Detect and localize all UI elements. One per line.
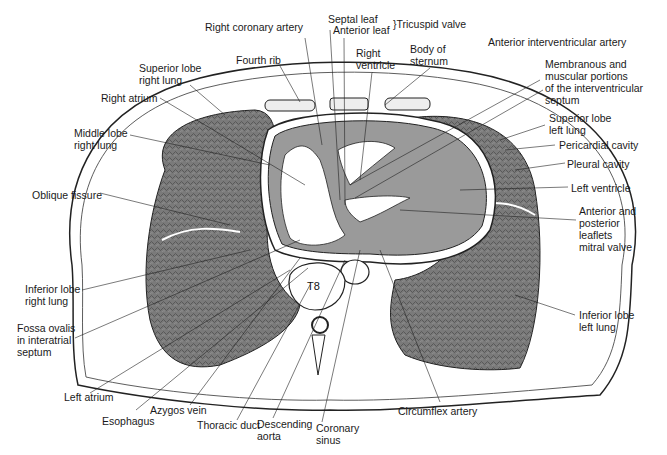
fourth-rib-shape — [265, 100, 315, 111]
label-coronary-sinus: Coronary sinus — [316, 422, 359, 446]
label-left-atrium: Left atrium — [64, 391, 114, 403]
label-right-ventricle: Right ventricle — [356, 47, 395, 71]
label-descending-aorta: Descending aorta — [257, 418, 312, 442]
label-superior-lobe-right-lung: Superior lobe right lung — [139, 62, 201, 86]
label-azygos-vein: Azygos vein — [150, 404, 207, 416]
label-mitral-valve-leaflets: Anterior and posterior leaflets mitral v… — [579, 205, 636, 253]
label-pleural-cavity: Pleural cavity — [567, 158, 629, 170]
label-right-atrium: Right atrium — [101, 92, 158, 104]
label-fourth-rib: Fourth rib — [236, 54, 281, 66]
label-fossa-ovalis: Fossa ovalis in interatrial septum — [17, 322, 75, 358]
label-middle-lobe-right-lung: Middle lobe right lung — [74, 127, 128, 151]
label-esophagus: Esophagus — [102, 415, 155, 427]
label-circumflex-artery: Circumflex artery — [398, 405, 477, 417]
label-anterior-leaf: Anterior leaf — [333, 24, 390, 36]
label-left-ventricle: Left ventricle — [571, 182, 631, 194]
label-pericardial-cavity: Pericardial cavity — [559, 139, 638, 151]
label-inferior-lobe-left-lung: Inferior lobe left lung — [579, 309, 634, 333]
sternum — [330, 98, 368, 110]
label-oblique-fissure: Oblique fissure — [32, 189, 102, 201]
label-body-of-sternum: Body of sternum — [410, 43, 448, 67]
label-superior-lobe-left-lung: Superior lobe left lung — [549, 112, 611, 136]
label-membranous-muscular-septum: Membranous and muscular portions of the … — [545, 58, 643, 106]
label-tricuspid-valve: }Tricuspid valve — [393, 18, 466, 30]
spinal-canal — [312, 317, 328, 333]
label-right-coronary-artery: Right coronary artery — [205, 21, 303, 33]
label-thoracic-duct: Thoracic duct — [197, 419, 260, 431]
vertebra-label: T8 — [307, 280, 320, 292]
label-anterior-interventricular-artery: Anterior interventricular artery — [488, 36, 626, 48]
label-inferior-lobe-right-lung: Inferior lobe right lung — [25, 283, 80, 307]
